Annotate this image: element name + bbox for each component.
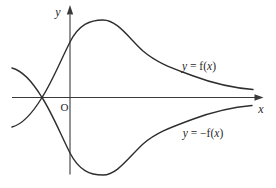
f-label-eq: = f( xyxy=(187,60,207,73)
x-axis-label: x xyxy=(257,102,264,116)
plot-canvas: y x O y = f(x) y = −f(x) xyxy=(0,0,276,188)
f-label-paren: ) xyxy=(212,60,216,73)
neg-f-curve xyxy=(12,68,252,175)
function-graph-figure: y x O y = f(x) y = −f(x) xyxy=(0,0,276,188)
f-curve-label: y = f(x) xyxy=(181,60,216,73)
y-axis-arrow-icon xyxy=(67,5,73,15)
neg-f-label-paren: ) xyxy=(219,127,223,140)
origin-label: O xyxy=(61,101,69,113)
neg-f-curve-label: y = −f(x) xyxy=(182,127,224,140)
neg-f-label-eq: = −f( xyxy=(188,127,215,140)
y-axis-label: y xyxy=(54,5,61,19)
x-axis-arrow-icon xyxy=(255,94,264,100)
